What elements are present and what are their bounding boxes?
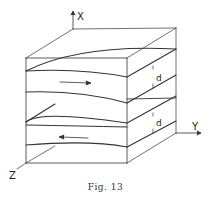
diagram-figure: X Y Z d d — [0, 0, 211, 201]
arrow-left-icon — [59, 135, 88, 139]
bottom-right-edge — [127, 133, 176, 163]
top-edges — [26, 28, 176, 58]
thickness-label-upper: d — [156, 73, 162, 83]
upper-layer — [26, 48, 176, 103]
thickness-label-lower: d — [156, 118, 162, 128]
x-axis — [71, 11, 75, 29]
figure-caption: Fig. 13 — [0, 182, 211, 192]
x-axis-label: X — [77, 11, 84, 22]
z-axis — [17, 146, 55, 169]
right-face-lines — [127, 98, 176, 99]
lower-layer — [26, 96, 176, 147]
z-axis-label: Z — [9, 170, 16, 181]
front-face — [26, 58, 127, 163]
lower-layer-front-top — [26, 125, 127, 127]
y-axis-label: Y — [191, 121, 199, 132]
arrow-right-icon — [60, 81, 91, 85]
